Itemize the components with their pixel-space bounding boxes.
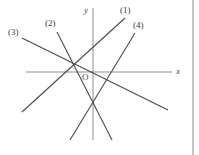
figure-canvas (0, 0, 199, 155)
coordinate-line-figure: (1) (2) (3) (4) x y O (0, 0, 199, 155)
line-2-stroke (57, 32, 112, 140)
line-1-label: (1) (120, 6, 131, 15)
line-3-label: (3) (8, 28, 19, 37)
line-2-label: (2) (45, 19, 56, 28)
line-4-label: (4) (133, 21, 144, 30)
y-axis-label: y (84, 6, 88, 15)
origin-label: O (82, 73, 89, 82)
x-axis-label: x (176, 67, 180, 76)
line-4-stroke (70, 33, 135, 140)
